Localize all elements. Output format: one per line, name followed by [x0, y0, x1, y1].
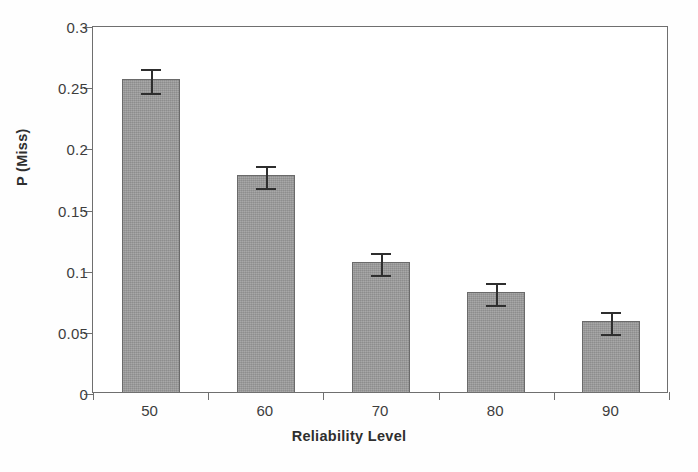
y-axis-tick-label: 0.2	[67, 141, 88, 158]
error-bar-cap-lower	[601, 334, 621, 336]
x-axis-tick-mark	[323, 392, 324, 400]
x-axis-tick-label: 90	[602, 402, 619, 419]
y-axis-tick-label: 0	[79, 386, 88, 403]
bar	[122, 79, 180, 392]
x-axis-tick-label: 50	[141, 402, 158, 419]
bar	[467, 292, 525, 392]
y-axis-tick-label: 0.1	[67, 263, 88, 280]
x-axis-tick-mark	[669, 392, 670, 400]
plot-area: 00.050.10.150.20.250.3	[92, 26, 668, 393]
error-bar-cap-lower	[256, 188, 276, 190]
bar	[237, 175, 295, 392]
y-axis-title: P (Miss)	[14, 128, 30, 186]
y-axis-tick-label: 0.3	[67, 19, 88, 36]
x-axis-tick-mark	[439, 392, 440, 400]
y-axis-tick-label: 0.15	[58, 202, 88, 219]
x-axis-tick-label: 70	[372, 402, 389, 419]
x-axis-tick-label: 80	[487, 402, 504, 419]
error-bar-cap-upper	[486, 283, 506, 285]
error-bar	[611, 312, 613, 334]
error-bar-cap-upper	[371, 253, 391, 255]
error-bar-cap-upper	[141, 69, 161, 71]
error-bar	[151, 69, 153, 93]
error-bar-cap-lower	[141, 93, 161, 95]
x-axis-tick-label: 60	[256, 402, 273, 419]
bar-chart-figure: 00.050.10.150.20.250.3 P (Miss) Reliabil…	[0, 0, 698, 472]
y-axis-tick-label: 0.05	[58, 324, 88, 341]
x-axis-tick-mark	[554, 392, 555, 400]
error-bar	[496, 283, 498, 305]
error-bar	[381, 253, 383, 275]
y-axis-tick-label: 0.25	[58, 80, 88, 97]
x-axis-title: Reliability Level	[0, 428, 698, 444]
error-bar-cap-upper	[601, 312, 621, 314]
bar	[352, 262, 410, 392]
error-bar	[266, 166, 268, 188]
error-bar-cap-lower	[371, 275, 391, 277]
error-bar-cap-upper	[256, 166, 276, 168]
x-axis-tick-mark	[208, 392, 209, 400]
x-axis-tick-mark	[93, 392, 94, 400]
error-bar-cap-lower	[486, 305, 506, 307]
